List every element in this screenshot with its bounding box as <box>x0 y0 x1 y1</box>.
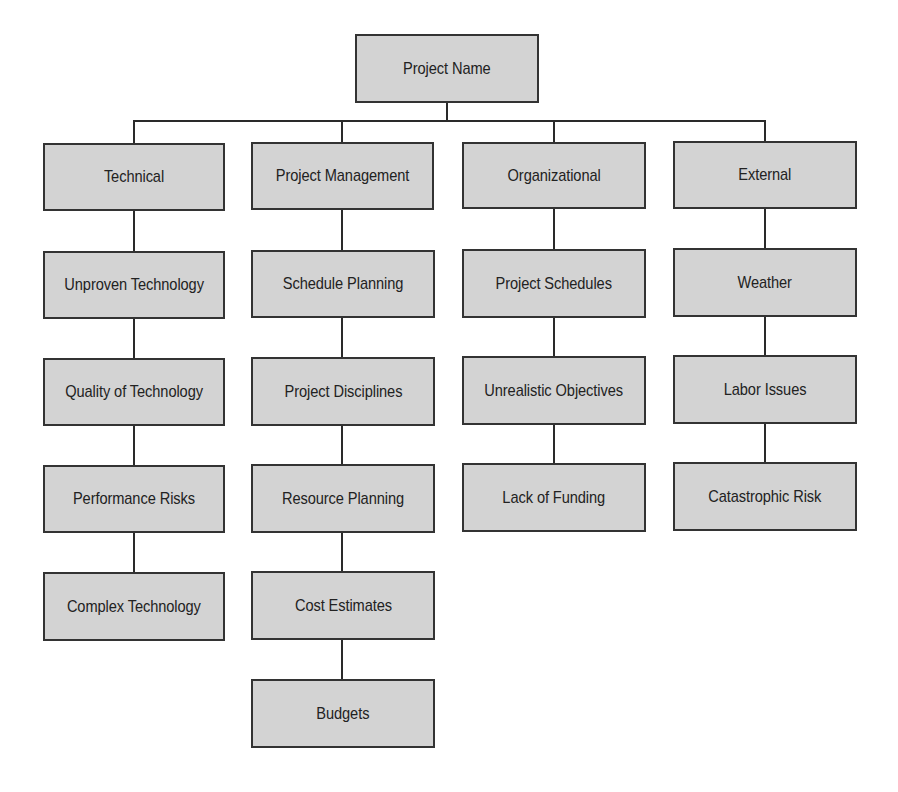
risk-node: Unrealistic Objectives <box>462 356 646 425</box>
risk-label: Unproven Technology <box>64 275 204 295</box>
root-node-label: Project Name <box>403 59 491 79</box>
category-external: External <box>673 141 857 209</box>
category-label: External <box>739 165 792 185</box>
risk-node: Schedule Planning <box>251 250 435 318</box>
risk-node: Performance Risks <box>43 465 225 533</box>
category-technical: Technical <box>43 143 225 211</box>
risk-node: Lack of Funding <box>462 463 646 532</box>
connector-to-organizational <box>553 120 555 143</box>
category-label: Organizational <box>507 166 600 186</box>
risk-label: Cost Estimates <box>294 596 391 616</box>
risk-node: Complex Technology <box>43 572 225 641</box>
connector-horizontal-bar <box>133 120 766 122</box>
risk-label: Weather <box>738 273 792 293</box>
risk-label: Complex Technology <box>67 597 201 617</box>
risk-node: Quality of Technology <box>43 358 225 426</box>
risk-label: Performance Risks <box>73 489 195 509</box>
risk-node: Budgets <box>251 679 435 748</box>
category-project-management: Project Management <box>251 142 434 210</box>
risk-node: Project Disciplines <box>251 357 435 426</box>
risk-node: Resource Planning <box>251 464 435 533</box>
category-organizational: Organizational <box>462 142 646 209</box>
risk-node: Catastrophic Risk <box>673 462 857 531</box>
category-label: Project Management <box>276 166 409 186</box>
risk-label: Catastrophic Risk <box>708 487 821 507</box>
risk-label: Unrealistic Objectives <box>485 381 624 401</box>
risk-node: Weather <box>673 248 857 317</box>
connector-to-external <box>764 120 766 143</box>
risk-node: Cost Estimates <box>251 571 435 640</box>
risk-node: Unproven Technology <box>43 251 225 319</box>
risk-node: Project Schedules <box>462 249 646 318</box>
root-node: Project Name <box>355 34 539 103</box>
risk-label: Budgets <box>316 704 369 724</box>
connector-to-technical <box>133 120 135 143</box>
risk-label: Lack of Funding <box>503 488 606 508</box>
risk-label: Project Schedules <box>496 274 612 294</box>
risk-label: Resource Planning <box>282 489 404 509</box>
risk-label: Labor Issues <box>724 380 807 400</box>
risk-label: Project Disciplines <box>284 382 402 402</box>
risk-label: Schedule Planning <box>283 274 403 294</box>
connector-to-project-management <box>341 120 343 143</box>
risk-node: Labor Issues <box>673 355 857 424</box>
connector-organizational-column <box>553 209 555 465</box>
risk-breakdown-diagram: Project Name Technical Project Managemen… <box>0 0 898 792</box>
category-label: Technical <box>104 167 164 187</box>
risk-label: Quality of Technology <box>65 382 203 402</box>
